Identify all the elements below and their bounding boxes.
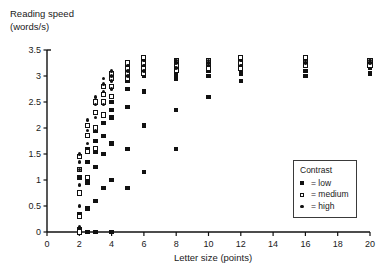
y-tick-label: 1.5: [10, 149, 41, 159]
x-tick-label: 8: [174, 239, 179, 249]
legend-entry-label: = high: [311, 201, 334, 213]
data-point-high: [110, 69, 114, 73]
data-point-low: [77, 175, 82, 180]
data-point-low: [142, 170, 147, 175]
data-point-low: [174, 76, 179, 81]
data-point-low: [174, 108, 179, 113]
y-tick-label: 0: [10, 227, 41, 237]
data-point-low: [85, 230, 90, 235]
y-tick-label: 0.5: [10, 201, 41, 211]
data-point-high: [102, 82, 106, 86]
filled-square-icon: [300, 178, 311, 190]
reading-speed-scatter-chart: Reading speed (words/s) 00.511.522.533.5…: [0, 0, 392, 276]
x-tick-label: 14: [268, 239, 278, 249]
data-point-low: [101, 134, 106, 139]
data-point-low: [93, 199, 98, 204]
legend: Contrast = low= medium= high: [293, 160, 357, 218]
legend-entry-low: = low: [300, 178, 349, 190]
data-point-high: [126, 64, 130, 68]
data-point-high: [142, 69, 146, 73]
data-point-medium: [93, 110, 98, 115]
data-point-high: [239, 64, 243, 68]
data-point-high: [78, 160, 82, 164]
x-tick-label: 12: [236, 239, 246, 249]
data-point-medium: [93, 146, 98, 151]
data-point-low: [206, 95, 211, 100]
chart-axes: [0, 0, 392, 276]
data-point-medium: [77, 190, 82, 195]
y-tick-label: 3: [10, 71, 41, 81]
data-point-low: [303, 74, 308, 79]
data-point-low: [85, 180, 90, 185]
data-point-low: [125, 87, 130, 92]
y-tick-label: 2.5: [10, 97, 41, 107]
legend-entry-label: = medium: [311, 189, 349, 201]
x-axis-label: Letter size (points): [0, 252, 392, 263]
data-point-medium: [109, 94, 114, 99]
y-tick-label: 1: [10, 175, 41, 185]
data-point-high: [142, 64, 146, 68]
data-point-high: [78, 183, 82, 187]
data-point-low: [125, 147, 130, 152]
data-point-medium: [85, 123, 90, 128]
x-tick-label: 10: [203, 239, 213, 249]
data-point-high: [239, 59, 243, 63]
data-point-medium: [85, 133, 90, 138]
legend-entry-label: = low: [311, 178, 331, 190]
data-point-medium: [85, 149, 90, 154]
x-tick-label: 2: [77, 239, 82, 249]
data-point-medium: [77, 229, 82, 234]
x-tick-label: 0: [44, 239, 49, 249]
open-square-icon: [300, 189, 311, 201]
data-point-low: [125, 105, 130, 110]
y-tick-label: 2: [10, 123, 41, 133]
data-point-low: [101, 186, 106, 191]
data-point-high: [174, 59, 178, 63]
legend-entry-high: = high: [300, 201, 349, 213]
x-tick-label: 20: [365, 239, 375, 249]
data-point-high: [86, 118, 90, 122]
data-point-low: [85, 206, 90, 211]
data-point-high: [142, 59, 146, 63]
data-point-high: [368, 59, 372, 63]
data-point-medium: [85, 175, 90, 180]
data-point-low: [174, 147, 179, 152]
data-point-low: [368, 71, 373, 76]
data-point-high: [126, 74, 130, 78]
legend-title: Contrast: [300, 165, 349, 177]
data-point-low: [142, 89, 147, 94]
legend-entries: = low= medium= high: [300, 178, 349, 213]
data-point-high: [78, 204, 82, 208]
data-point-low: [93, 165, 98, 170]
data-point-high: [78, 152, 82, 156]
data-point-low: [109, 230, 114, 235]
data-point-low: [303, 69, 308, 74]
data-point-low: [101, 152, 106, 157]
data-point-medium: [101, 112, 106, 117]
filled-circle-icon: [300, 201, 311, 213]
data-point-low: [206, 74, 211, 79]
data-point-low: [125, 186, 130, 191]
data-point-low: [109, 115, 114, 120]
data-point-high: [78, 225, 82, 229]
legend-entry-medium: = medium: [300, 189, 349, 201]
y-tick-label: 3.5: [10, 45, 41, 55]
data-point-low: [109, 141, 114, 146]
x-tick-label: 4: [109, 239, 114, 249]
data-point-high: [86, 160, 90, 164]
x-tick-label: 16: [300, 239, 310, 249]
data-point-low: [109, 100, 114, 105]
data-point-medium: [77, 214, 82, 219]
data-point-high: [94, 95, 98, 99]
data-point-low: [239, 79, 244, 84]
data-point-high: [126, 69, 130, 73]
data-point-low: [93, 230, 98, 235]
x-axis-label-text: Letter size (points): [140, 252, 252, 263]
data-point-low: [142, 123, 147, 128]
data-point-low: [109, 178, 114, 183]
x-tick-label: 6: [141, 239, 146, 249]
data-point-low: [101, 121, 106, 126]
data-point-high: [174, 66, 178, 70]
x-tick-label: 18: [333, 239, 343, 249]
data-point-low: [93, 139, 98, 144]
